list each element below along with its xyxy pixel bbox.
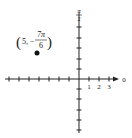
plotted-point	[35, 51, 40, 56]
point-label-open-paren: (	[16, 34, 21, 51]
tick-label-3: 3	[107, 83, 111, 91]
top-angle-denominator: 2	[78, 16, 81, 22]
point-label-sep: ,	[26, 37, 28, 46]
arrow-right-icon	[113, 77, 119, 82]
top-angle-numerator: π	[77, 7, 81, 15]
point-label-theta-den: 6	[39, 41, 43, 50]
tick-label-2: 2	[97, 83, 101, 91]
point-label-theta-num: 7π	[37, 30, 46, 39]
point-label-sign: −	[30, 37, 35, 46]
polar-plot: π 2 1 2 3 0 ( 5 , − 7π 6 )	[0, 0, 132, 138]
polar-axis-label: 0	[122, 76, 126, 84]
point-label-close-paren: )	[47, 34, 52, 51]
tick-label-1: 1	[87, 83, 91, 91]
